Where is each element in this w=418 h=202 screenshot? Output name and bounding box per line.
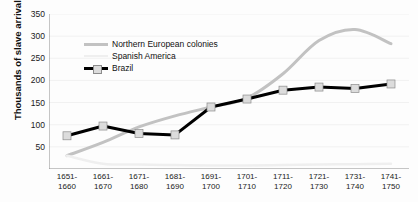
x-tick-label: 1741-1750 bbox=[373, 172, 409, 198]
x-tick-label: 1661-1670 bbox=[85, 172, 121, 198]
y-tick-label: 200 bbox=[19, 76, 45, 84]
series-brazil bbox=[63, 80, 395, 140]
legend-item[interactable]: Brazil bbox=[84, 62, 274, 73]
legend-label: Spanish America bbox=[112, 51, 176, 61]
series-spanish-america bbox=[67, 156, 391, 166]
data-point-marker bbox=[63, 132, 71, 140]
data-point-marker bbox=[387, 80, 395, 88]
x-tick-label: 1681-1690 bbox=[157, 172, 193, 198]
x-tick-label: 1701-1710 bbox=[229, 172, 265, 198]
legend-swatch-icon bbox=[84, 50, 108, 61]
y-axis-tick-labels: 50100150200250300350 bbox=[18, 0, 45, 202]
legend-item[interactable]: Northern European colonies bbox=[84, 38, 274, 49]
legend-label: Northern European colonies bbox=[112, 39, 218, 49]
x-tick-label: 1651-1660 bbox=[49, 172, 85, 198]
legend-swatch-icon bbox=[84, 38, 108, 49]
y-tick-label: 250 bbox=[19, 54, 45, 62]
chart-legend: Northern European coloniesSpanish Americ… bbox=[84, 38, 274, 74]
data-point-marker bbox=[207, 103, 215, 111]
data-point-marker bbox=[99, 122, 107, 130]
y-tick-label: 350 bbox=[19, 10, 45, 18]
data-point-marker bbox=[351, 84, 359, 92]
x-tick-label: 1721-1730 bbox=[301, 172, 337, 198]
x-tick-label: 1711-1720 bbox=[265, 172, 301, 198]
data-point-marker bbox=[243, 95, 251, 103]
legend-swatch-icon bbox=[84, 62, 108, 73]
legend-item[interactable]: Spanish America bbox=[84, 50, 274, 61]
data-point-marker bbox=[135, 130, 143, 138]
data-point-marker bbox=[171, 131, 179, 139]
series-line bbox=[67, 84, 391, 136]
x-tick-label: 1731-1740 bbox=[337, 172, 373, 198]
data-point-marker bbox=[279, 86, 287, 94]
series-line bbox=[67, 156, 391, 166]
y-tick-label: 50 bbox=[19, 143, 45, 151]
x-tick-label: 1671-1680 bbox=[121, 172, 157, 198]
chart-container: Thousands of slave arrivals 501001502002… bbox=[0, 0, 418, 202]
y-tick-label: 100 bbox=[19, 121, 45, 129]
y-tick-label: 150 bbox=[19, 99, 45, 107]
data-point-marker bbox=[315, 83, 323, 91]
x-tick-label: 1691-1700 bbox=[193, 172, 229, 198]
y-tick-label: 300 bbox=[19, 32, 45, 40]
x-axis-tick-labels: 1651-16601661-16701671-16801681-16901691… bbox=[49, 172, 409, 198]
legend-label: Brazil bbox=[112, 63, 133, 73]
